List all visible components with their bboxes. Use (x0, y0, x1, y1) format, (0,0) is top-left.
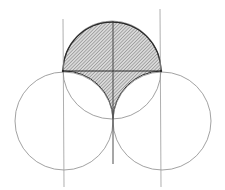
geometry-diagram (0, 0, 225, 190)
tangent-point-left (62, 70, 64, 72)
right-vertical-line (160, 9, 161, 187)
tangent-point-right (160, 70, 162, 72)
right-circle (113, 72, 211, 170)
left-vertical-line (63, 19, 64, 187)
